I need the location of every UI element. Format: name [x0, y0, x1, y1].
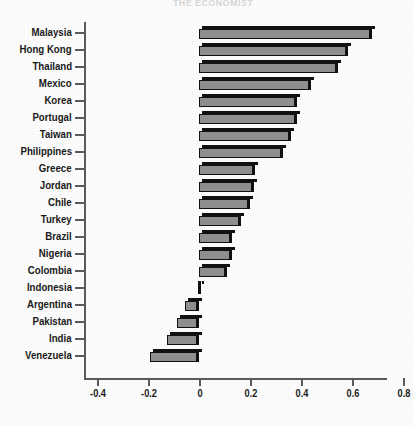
bar-side-edge	[196, 332, 199, 345]
x-axis-tick	[250, 378, 252, 386]
y-axis-tick	[75, 270, 84, 272]
x-axis-tick-label: 0.4	[283, 388, 320, 399]
bar-side-edge	[229, 247, 232, 260]
bar-row: Greece	[84, 160, 413, 177]
bar-face	[167, 335, 199, 345]
bar-top-edge	[202, 94, 300, 97]
bar-side-edge	[288, 128, 291, 141]
category-label: Thailand	[32, 58, 72, 75]
bar	[199, 162, 255, 175]
bar-side-edge	[224, 264, 227, 277]
y-axis-tick	[75, 32, 84, 34]
y-axis-tick	[75, 321, 84, 323]
ghost-header-text: THE ECONOMIST	[118, 0, 308, 12]
bar-top-edge	[202, 179, 257, 182]
bar	[199, 230, 232, 243]
bar-face	[199, 63, 338, 73]
bar-top-edge	[202, 281, 205, 284]
category-label: Hong Kong	[20, 41, 72, 58]
bar-face	[199, 199, 250, 209]
bar-row: Malaysia	[84, 24, 413, 41]
bar-row: Indonesia	[84, 279, 413, 296]
y-axis-tick	[75, 100, 84, 102]
x-axis-tick	[97, 378, 99, 386]
category-label: Nigeria	[39, 245, 72, 262]
x-axis-tick	[352, 378, 354, 386]
bar-side-edge	[308, 77, 311, 90]
x-axis-tick	[301, 378, 303, 386]
category-label: Chile	[48, 194, 72, 211]
bar-top-edge	[188, 298, 202, 301]
x-axis-tick	[403, 378, 405, 386]
y-axis-tick	[75, 134, 84, 136]
bar	[167, 332, 199, 345]
bar-face	[199, 233, 232, 243]
bar-face	[199, 267, 227, 277]
bar-row: Portugal	[84, 109, 413, 126]
bar-top-edge	[202, 43, 351, 46]
bar-side-edge	[196, 349, 199, 362]
bar-top-edge	[202, 60, 341, 63]
bar	[199, 213, 241, 226]
bar	[199, 111, 297, 124]
category-label: Greece	[39, 160, 72, 177]
bar-row: Colombia	[84, 262, 413, 279]
bar-side-edge	[198, 281, 201, 294]
bar-side-edge	[196, 315, 199, 328]
bar-side-edge	[238, 213, 241, 226]
y-axis-tick	[75, 202, 84, 204]
bar-top-edge	[202, 162, 258, 165]
bar	[199, 264, 227, 277]
y-axis-tick	[75, 168, 84, 170]
bar-row: Hong Kong	[84, 41, 413, 58]
y-axis-tick	[75, 219, 84, 221]
bar-top-edge	[153, 349, 201, 352]
bar	[199, 179, 254, 192]
bar	[150, 349, 198, 362]
y-axis-tick	[75, 338, 84, 340]
bar-side-edge	[196, 298, 199, 311]
y-axis-tick	[75, 151, 84, 153]
bar-side-edge	[345, 43, 348, 56]
x-axis-tick-label: 0.8	[385, 388, 413, 399]
bar-side-edge	[247, 196, 250, 209]
bar-side-edge	[369, 26, 372, 39]
category-label: Colombia	[28, 262, 72, 279]
bar-side-edge	[251, 179, 254, 192]
bar-face	[199, 29, 372, 39]
bar-side-edge	[294, 94, 297, 107]
category-label: Argentina	[27, 296, 72, 313]
category-label: Malaysia	[32, 24, 72, 41]
x-axis-tick-label: 0.2	[232, 388, 269, 399]
bar	[199, 43, 348, 56]
category-label: India	[49, 330, 72, 347]
bar-top-edge	[202, 145, 286, 148]
bar-row: Thailand	[84, 58, 413, 75]
category-label: Portugal	[33, 109, 72, 126]
x-axis-tick-label: -0.2	[130, 388, 167, 399]
bar-row: Mexico	[84, 75, 413, 92]
bar-top-edge	[202, 77, 314, 80]
bar-face	[199, 148, 283, 158]
bar	[185, 298, 199, 311]
bar-face	[150, 352, 198, 362]
category-label: Pakistan	[32, 313, 72, 330]
category-label: Jordan	[40, 177, 72, 194]
bar-row: Philippines	[84, 143, 413, 160]
y-axis-tick	[75, 117, 84, 119]
bar-side-edge	[229, 230, 232, 243]
bar-row: Brazil	[84, 228, 413, 245]
x-axis-tick	[199, 378, 201, 386]
bar-top-edge	[202, 26, 375, 29]
bar-face	[199, 97, 297, 107]
y-axis-tick	[75, 66, 84, 68]
bar-face	[199, 131, 291, 141]
y-axis-tick	[75, 236, 84, 238]
bar-side-edge	[280, 145, 283, 158]
bar-face	[199, 250, 232, 260]
bar-side-edge	[252, 162, 255, 175]
bar-row: Taiwan	[84, 126, 413, 143]
x-axis-tick	[148, 378, 150, 386]
category-label: Turkey	[41, 211, 72, 228]
bar	[177, 315, 199, 328]
